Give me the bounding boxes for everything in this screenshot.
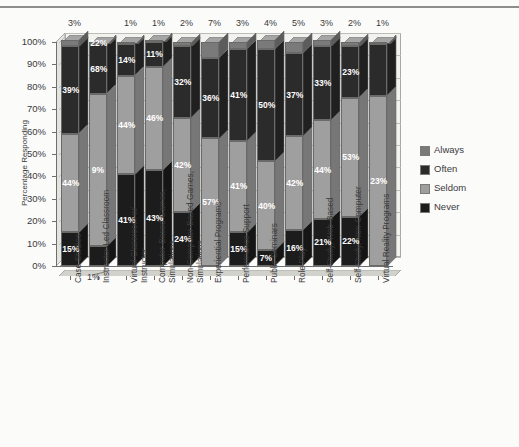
bar-segment[interactable]: 41% bbox=[229, 49, 246, 141]
y-axis-line bbox=[56, 42, 57, 267]
bar-segment-side-face bbox=[359, 33, 369, 46]
bar-segment-side-face bbox=[247, 40, 257, 141]
x-axis-label: Virtual Reality Programs bbox=[382, 194, 392, 283]
x-axis-label: Self-Study, Web-Based bbox=[326, 198, 336, 283]
y-tick-label: 10% bbox=[16, 238, 46, 249]
bar-segment[interactable]: 44% bbox=[117, 76, 134, 175]
bar-segment-value: 11% bbox=[146, 49, 161, 59]
bar-segment-side-face bbox=[135, 67, 145, 175]
bar-segment[interactable] bbox=[145, 40, 162, 42]
bar-segment-side-face bbox=[219, 49, 229, 139]
x-tick-mark bbox=[182, 276, 183, 280]
bar-segment[interactable]: 50% bbox=[257, 49, 274, 161]
bar-segment[interactable] bbox=[61, 40, 78, 47]
bar-segment[interactable] bbox=[229, 42, 246, 49]
bar-segment-value: 44% bbox=[118, 120, 133, 130]
bar-segment[interactable]: 46% bbox=[145, 67, 162, 170]
legend-label: Never bbox=[434, 201, 459, 212]
bar-segment-side-face bbox=[331, 31, 341, 47]
bar-segment[interactable]: 23% bbox=[341, 46, 358, 98]
bar-segment-side-face bbox=[219, 33, 229, 58]
bar-segment-value: 41% bbox=[230, 90, 245, 100]
x-axis-label: Performance Support bbox=[242, 204, 252, 283]
stacked-bar-chart: 0%10%20%30%40%50%60%70%80%90%100%Percent… bbox=[0, 0, 519, 447]
top-annotation: 1% bbox=[367, 18, 399, 28]
bar-segment[interactable]: 11% bbox=[145, 42, 162, 67]
bar-segment-value: 53% bbox=[342, 152, 357, 162]
y-tick-label: 20% bbox=[16, 215, 46, 226]
bar-segment-side-face bbox=[303, 33, 313, 53]
top-annotation: 3% bbox=[59, 18, 91, 28]
bar-segment-value: 23% bbox=[370, 176, 385, 186]
bar-segment[interactable]: 14% bbox=[117, 44, 134, 75]
bar-segment[interactable] bbox=[369, 44, 386, 96]
x-tick-mark bbox=[126, 276, 127, 280]
bar-segment[interactable]: 22% bbox=[89, 42, 106, 44]
bar-segment-value: 37% bbox=[286, 90, 301, 100]
bar-segment[interactable] bbox=[117, 42, 134, 44]
legend-swatch bbox=[420, 165, 430, 175]
legend-swatch bbox=[420, 184, 430, 194]
legend-label: Always bbox=[434, 144, 464, 155]
bar-segment-value: 46% bbox=[146, 113, 161, 123]
bar-segment[interactable] bbox=[285, 42, 302, 53]
bar-segment-side-face bbox=[79, 125, 89, 233]
bar-segment-side-face bbox=[331, 37, 341, 120]
x-axis-label: Role Play bbox=[298, 247, 308, 283]
x-tick-mark bbox=[210, 276, 211, 280]
bar-segment[interactable]: 32% bbox=[173, 46, 190, 118]
bar-segment-value: 44% bbox=[62, 178, 77, 188]
bar-segment-side-face bbox=[387, 33, 397, 44]
bar-segment[interactable]: 33% bbox=[313, 46, 330, 120]
legend-swatch bbox=[420, 203, 430, 213]
x-tick-mark bbox=[294, 276, 295, 280]
x-tick-mark bbox=[350, 276, 351, 280]
x-axis-label: Self-Study, Non-Computer bbox=[354, 186, 364, 283]
bar-segment-value: 41% bbox=[230, 181, 245, 191]
bar-segment[interactable] bbox=[369, 42, 386, 44]
bar-segment[interactable]: 68% bbox=[89, 44, 106, 93]
bar-segment[interactable] bbox=[341, 42, 358, 46]
y-tick-label: 100% bbox=[16, 36, 46, 47]
x-axis-label: Experiential Programs bbox=[214, 201, 224, 283]
y-tick-label: 70% bbox=[16, 103, 46, 114]
legend-label: Often bbox=[434, 163, 457, 174]
bar-segment-value: 42% bbox=[174, 160, 189, 170]
bar-segment-side-face bbox=[387, 35, 397, 96]
bar-segment-value: 9% bbox=[90, 165, 105, 175]
bar-segment-side-face bbox=[191, 33, 201, 46]
bar-segment-side-face bbox=[275, 31, 285, 49]
bar-segment-side-face bbox=[79, 31, 89, 47]
bar-segment-side-face bbox=[275, 40, 285, 161]
x-tick-mark bbox=[378, 276, 379, 280]
bar-segment-value: 23% bbox=[342, 67, 357, 77]
bar-segment-side-face bbox=[359, 37, 369, 98]
x-tick-mark bbox=[154, 276, 155, 280]
bar-segment-value: 39% bbox=[62, 85, 77, 95]
bar-segment[interactable] bbox=[313, 40, 330, 47]
bar-segment[interactable] bbox=[257, 40, 274, 49]
y-tick-label: 90% bbox=[16, 58, 46, 69]
legend-swatch bbox=[420, 146, 430, 156]
x-tick-mark bbox=[238, 276, 239, 280]
y-tick-label: 0% bbox=[16, 260, 46, 271]
bar-segment-value: 50% bbox=[258, 100, 273, 110]
bar-segment[interactable] bbox=[201, 42, 218, 58]
bar-segment[interactable]: 36% bbox=[201, 58, 218, 139]
bar-segment-side-face bbox=[247, 33, 257, 49]
bar-segment-value: 40% bbox=[258, 201, 273, 211]
bar-segment-value: 32% bbox=[174, 77, 189, 87]
bar-segment[interactable]: 39% bbox=[61, 46, 78, 133]
legend-label: Seldom bbox=[434, 182, 466, 193]
bar-segment-side-face bbox=[107, 33, 117, 44]
bar-segment[interactable]: 44% bbox=[61, 134, 78, 233]
bar-segment[interactable]: 37% bbox=[285, 53, 302, 136]
y-tick-label: 80% bbox=[16, 81, 46, 92]
bar-segment[interactable]: 42% bbox=[285, 136, 302, 230]
bar-segment-side-face bbox=[163, 58, 173, 170]
bar-segment-side-face bbox=[191, 37, 201, 118]
bar-segment-side-face bbox=[135, 33, 145, 44]
x-tick-mark bbox=[70, 276, 71, 280]
bar-segment[interactable] bbox=[173, 42, 190, 46]
bar-segment-side-face bbox=[303, 127, 313, 230]
